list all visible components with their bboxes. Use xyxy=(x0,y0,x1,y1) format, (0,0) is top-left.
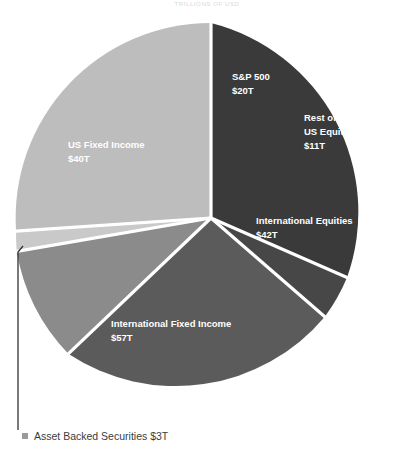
pie-chart: S&P 500 $20T Rest of US Equities $11T In… xyxy=(0,0,414,430)
pie-label-sp-500-name: S&P 500 xyxy=(232,71,270,82)
pie-label-us-fixed-income-name: US Fixed Income xyxy=(68,139,145,150)
pie-chart-svg: S&P 500 $20T Rest of US Equities $11T In… xyxy=(0,0,414,430)
pie-label-international-equities-name: International Equities xyxy=(256,215,353,226)
pie-slice-us-fixed-income[interactable] xyxy=(16,23,211,231)
legend-swatch-icon xyxy=(22,433,28,439)
pie-label-us-fixed-income-value: $40T xyxy=(68,153,90,164)
pie-label-international-equities-value: $42T xyxy=(256,229,278,240)
pie-label-international-fixed-income-value: $57T xyxy=(111,332,133,343)
pie-label-rest-us-equities-line1: Rest of xyxy=(304,112,337,123)
legend-label: Asset Backed Securities $3T xyxy=(34,430,168,442)
pie-label-international-fixed-income-name: International Fixed Income xyxy=(111,318,231,329)
pie-label-rest-us-equities-value: $11T xyxy=(304,140,325,151)
pie-label-rest-us-equities-line2: US Equities xyxy=(304,126,357,137)
legend-asset-backed-securities[interactable]: Asset Backed Securities $3T xyxy=(22,428,168,444)
pie-label-sp-500-value: $20T xyxy=(232,85,254,96)
pie-slices xyxy=(16,23,359,386)
